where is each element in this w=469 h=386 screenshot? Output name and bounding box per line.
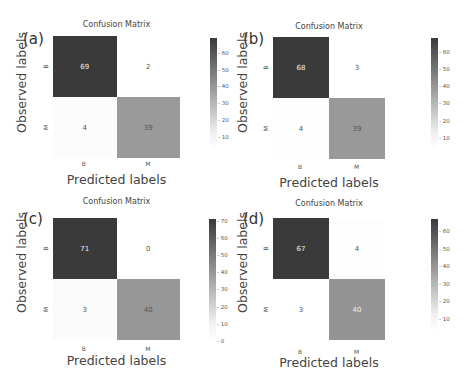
heatmap-grid: 683439 [273,37,385,159]
x-axis-label: Predicted labels [273,355,385,370]
y-axis-label: Observed labels [235,18,250,148]
x-tick-label: M [354,163,359,170]
chart-title: Confusion Matrix [53,20,180,29]
colorbar-tick: - 20 [439,298,450,304]
heatmap-cell: 4 [329,218,385,279]
colorbar-tick: - 10 [439,135,450,141]
heatmap-grid: 710340 [53,218,180,340]
colorbar-tick: - 10 [439,316,450,322]
confusion-matrix-panel: (a)Confusion Matrix692439BMBMObserved la… [0,0,234,190]
y-tick-label: M [42,124,49,129]
colorbar-tick: - 50 [439,66,450,72]
chart-title: Confusion Matrix [273,199,385,208]
colorbar [210,38,217,150]
x-tick-label: B [82,160,86,167]
heatmap-cell: 39 [117,97,181,158]
colorbar-tick: - 30 [439,100,450,106]
colorbar-tick: - 20 [439,118,450,124]
y-tick-label: M [262,306,269,311]
x-tick-label: B [298,163,302,170]
heatmap-cell: 68 [273,37,329,98]
confusion-matrix-panel: (c)Confusion Matrix710340BMBMObserved la… [0,190,234,380]
colorbar-tick: - 30 [439,281,450,287]
colorbar [209,219,216,341]
colorbar-tick: - 70 [217,218,228,224]
y-axis-label: Observed labels [14,198,29,328]
colorbar-tick: - 60 [439,228,450,234]
colorbar-tick: - 60 [218,50,229,56]
colorbar-tick: - 20 [218,117,229,123]
colorbar [431,38,438,150]
colorbar-tick: - 30 [217,286,228,292]
chart-title: Confusion Matrix [273,22,385,31]
colorbar-tick: - 40 [439,263,450,269]
colorbar-tick: - 0 [217,338,224,344]
heatmap-cell: 3 [329,37,385,98]
y-axis-label: Observed labels [14,18,29,148]
heatmap-cell: 4 [273,98,329,159]
heatmap-cell: 40 [117,279,181,340]
y-axis-label: Observed labels [235,198,250,328]
colorbar-tick: - 50 [439,246,450,252]
heatmap-cell: 71 [53,218,117,279]
y-tick-label: B [262,246,269,250]
heatmap-cell: 39 [329,98,385,159]
confusion-matrix-panel: (d)Confusion Matrix674340BMBMObserved la… [235,190,469,380]
x-tick-label: M [145,345,150,352]
y-tick-label: M [42,306,49,311]
heatmap-cell: 69 [53,36,117,97]
x-tick-label: B [298,348,302,355]
colorbar-tick: - 30 [218,100,229,106]
x-axis-label: Predicted labels [53,172,180,187]
heatmap-cell: 4 [53,97,117,158]
colorbar-tick: - 10 [218,134,229,140]
heatmap-cell: 0 [117,218,181,279]
heatmap-cell: 3 [273,279,329,340]
heatmap-cell: 67 [273,218,329,279]
colorbar-tick: - 50 [217,252,228,258]
x-axis-label: Predicted labels [53,353,180,368]
colorbar-tick: - 10 [217,321,228,327]
colorbar-tick: - 50 [218,67,229,73]
colorbar-tick: - 60 [439,49,450,55]
heatmap-grid: 674340 [273,218,385,340]
heatmap-grid: 692439 [53,36,180,158]
chart-title: Confusion Matrix [53,197,180,206]
confusion-matrix-panel: (b)Confusion Matrix683439BMBMObserved la… [235,0,469,190]
heatmap-cell: 2 [117,36,181,97]
y-tick-label: B [42,64,49,68]
heatmap-cell: 40 [329,279,385,340]
colorbar [431,219,438,331]
colorbar-tick: - 40 [439,83,450,89]
x-axis-label: Predicted labels [273,175,385,190]
y-tick-label: B [42,246,49,250]
colorbar-tick: - 60 [217,235,228,241]
x-tick-label: B [82,345,86,352]
y-tick-label: B [262,65,269,69]
colorbar-tick: - 20 [217,304,228,310]
y-tick-label: M [262,125,269,130]
x-tick-label: M [354,348,359,355]
colorbar-tick: - 40 [217,269,228,275]
colorbar-tick: - 40 [218,83,229,89]
heatmap-cell: 3 [53,279,117,340]
x-tick-label: M [145,160,150,167]
